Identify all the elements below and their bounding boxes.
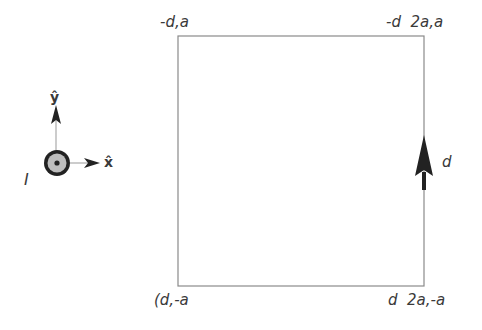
corner-label-bottom-left: (d,-a (154, 293, 189, 308)
current-label: I (24, 172, 29, 188)
segment-length-label: d (442, 155, 452, 170)
diagram-canvas (0, 0, 482, 330)
corner-label-bottom-right: d 2a,-a (388, 293, 445, 308)
x-axis-label: x̂ (104, 155, 113, 169)
square-loop (178, 36, 424, 286)
corner-label-top-left: -d,a (160, 15, 189, 30)
wire-out-of-page-icon (44, 150, 70, 176)
corner-label-top-right: -d 2a,a (386, 15, 443, 30)
current-arrow-icon (415, 135, 433, 190)
y-axis-label: ŷ (50, 90, 59, 104)
